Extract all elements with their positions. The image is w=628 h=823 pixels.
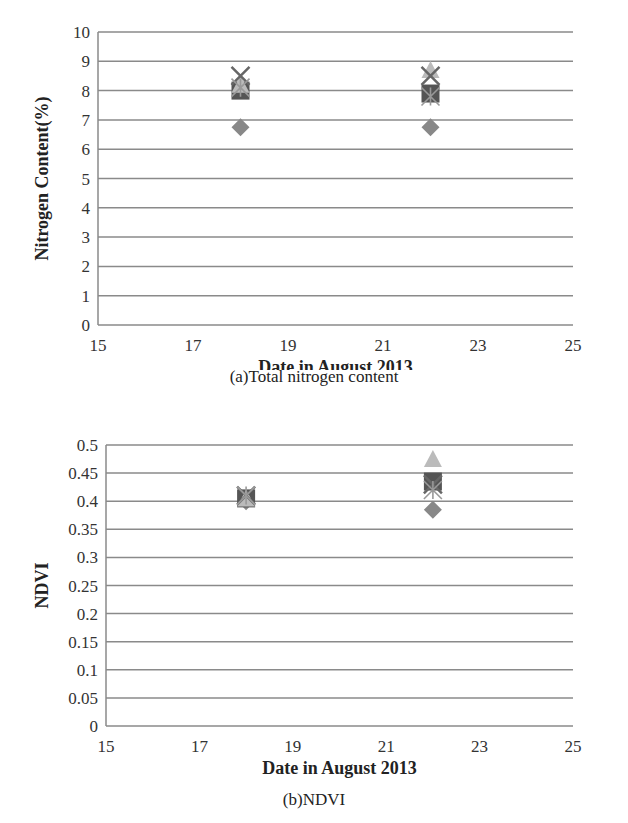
- y-tick-label: 0.45: [68, 464, 98, 483]
- y-tick-label: 0.4: [77, 492, 99, 511]
- y-tick-label: 0.25: [68, 577, 98, 596]
- x-tick-label: 25: [565, 737, 582, 756]
- x-tick-label: 17: [191, 737, 209, 756]
- y-tick-label: 0.2: [77, 605, 98, 624]
- x-tick-label: 15: [98, 737, 115, 756]
- chart-b-ndvi: 00.050.10.150.20.250.30.350.40.450.51517…: [0, 0, 628, 823]
- x-tick-label: 23: [471, 737, 488, 756]
- y-axis-label: NDVI: [32, 562, 52, 608]
- x-tick-label: 19: [284, 737, 301, 756]
- diamond-marker: [424, 501, 442, 519]
- x-axis-label: Date in August 2013: [262, 758, 417, 778]
- y-tick-label: 0.35: [68, 520, 98, 539]
- data-points: [237, 450, 442, 519]
- y-tick-label: 0.05: [68, 689, 98, 708]
- y-tick-label: 0: [90, 717, 99, 736]
- y-tick-label: 0.5: [77, 436, 98, 455]
- triangle-marker: [424, 450, 442, 467]
- y-tick-label: 0.1: [77, 661, 98, 680]
- chart-b-caption: (b)NDVI: [0, 790, 628, 810]
- chart-b-plot: 00.050.10.150.20.250.30.350.40.450.51517…: [0, 0, 628, 823]
- x-tick-label: 21: [378, 737, 395, 756]
- y-tick-label: 0.3: [77, 548, 98, 567]
- y-tick-label: 0.15: [68, 633, 98, 652]
